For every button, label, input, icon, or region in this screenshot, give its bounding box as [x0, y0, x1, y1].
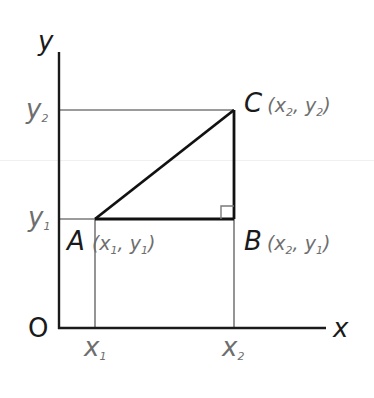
- side-ac: [95, 110, 234, 219]
- origin-label: O: [28, 315, 48, 341]
- coordinate-diagram: [0, 0, 374, 398]
- tick-x1: x1: [84, 334, 106, 362]
- tick-x2: x2: [222, 334, 244, 362]
- x-axis-label: x: [333, 315, 348, 341]
- point-b-coords: (x2, y1): [267, 232, 330, 254]
- point-c-coords: (x2, y2): [267, 94, 330, 116]
- tick-y1: y1: [28, 204, 50, 232]
- right-angle-marker: [221, 206, 234, 219]
- point-a-label: A (x1, y1): [67, 228, 155, 256]
- point-c-label: C (x2, y2): [244, 90, 331, 118]
- y-axis-label: y: [38, 28, 53, 54]
- point-b-label: B (x2, y1): [244, 228, 330, 256]
- tick-y2: y2: [26, 96, 48, 124]
- point-a-coords: (x1, y1): [92, 232, 155, 254]
